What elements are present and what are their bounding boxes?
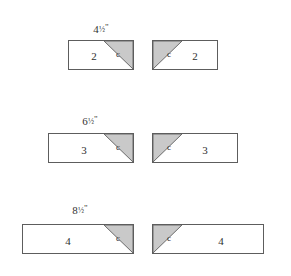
- corner-triangle-top-left: [153, 41, 217, 69]
- piece-number-label: 4: [218, 236, 224, 247]
- fabric-piece-right-row-2: 3c: [152, 133, 238, 163]
- corner-piece-label: c: [116, 234, 120, 243]
- corner-triangle-top-right: [49, 134, 133, 162]
- dimension-label-row-1: 4½": [93, 22, 109, 35]
- piece-number-label: 3: [81, 145, 87, 156]
- corner-piece-label: c: [116, 143, 120, 152]
- piece-number-label: 2: [192, 51, 198, 62]
- corner-piece-label: c: [116, 50, 120, 59]
- corner-piece-label: c: [167, 50, 171, 59]
- piece-number-label: 4: [65, 236, 71, 247]
- piece-number-label: 2: [91, 51, 97, 62]
- fabric-piece-left-row-1: 2c: [68, 40, 134, 70]
- dimension-unit: ": [105, 22, 109, 32]
- fabric-piece-left-row-2: 3c: [48, 133, 134, 163]
- dimension-label-row-3: 8½": [72, 203, 88, 216]
- dimension-unit: ": [84, 203, 88, 213]
- fabric-piece-right-row-3: 4c: [152, 224, 264, 254]
- piece-number-label: 3: [202, 145, 208, 156]
- corner-triangle-top-right: [69, 41, 133, 69]
- corner-piece-label: c: [167, 234, 171, 243]
- corner-piece-label: c: [167, 143, 171, 152]
- dimension-label-row-2: 6½": [82, 114, 98, 127]
- fabric-piece-left-row-3: 4c: [22, 224, 134, 254]
- cutting-diagram: 4½"2c2c6½"3c3c8½"4c4c: [0, 0, 291, 276]
- corner-triangle-top-left: [153, 134, 237, 162]
- dimension-unit: ": [94, 114, 98, 124]
- fabric-piece-right-row-1: 2c: [152, 40, 218, 70]
